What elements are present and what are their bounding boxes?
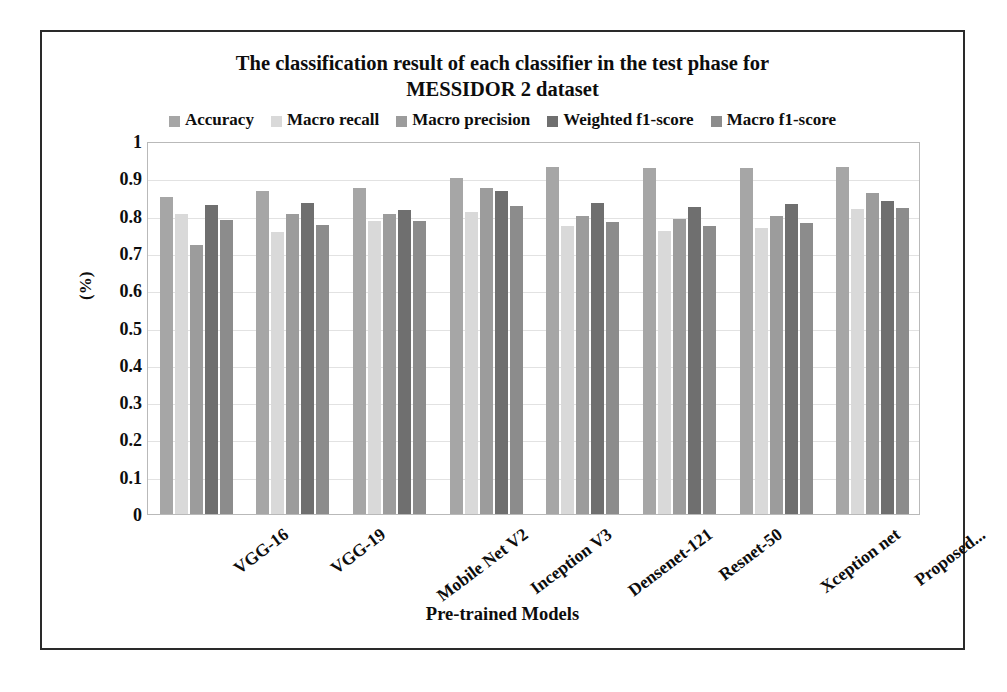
bar[interactable]: [256, 191, 269, 514]
bar[interactable]: [353, 188, 366, 514]
bar-group: [824, 143, 921, 514]
legend-swatch-icon: [271, 116, 282, 127]
y-axis-tick-label: 0.3: [96, 393, 142, 414]
bar-group: [438, 143, 535, 514]
legend-label: Macro f1-score: [727, 110, 836, 130]
bar[interactable]: [851, 209, 864, 514]
bar[interactable]: [688, 207, 701, 514]
bar-group: [341, 143, 438, 514]
legend-label: Accuracy: [185, 110, 254, 130]
y-axis-tick-label: 0.6: [96, 281, 142, 302]
bar-group: [245, 143, 342, 514]
bar[interactable]: [465, 212, 478, 514]
x-axis-tick-label: Densenet-121: [624, 524, 717, 601]
x-axis-tick-label: VGG-19: [327, 524, 390, 579]
bar[interactable]: [836, 167, 849, 514]
bar[interactable]: [770, 216, 783, 514]
legend-swatch-icon: [396, 116, 407, 127]
legend-item-macro-f1-score[interactable]: Macro f1-score: [711, 110, 836, 130]
x-axis-tick-label: Mobile Net V2: [432, 524, 531, 606]
bar[interactable]: [896, 208, 909, 514]
bar[interactable]: [643, 168, 656, 514]
y-axis-tick-labels: 10.90.80.70.60.50.40.30.20.10: [92, 142, 142, 515]
x-axis-tick-label: Resnet-50: [715, 524, 787, 585]
chart-figure: The classification result of each classi…: [40, 30, 965, 650]
chart-legend: AccuracyMacro recallMacro precisionWeigh…: [42, 110, 963, 130]
bar[interactable]: [881, 201, 894, 514]
bar[interactable]: [576, 216, 589, 514]
bar[interactable]: [175, 214, 188, 514]
x-axis-tick-label: Xception net: [816, 524, 904, 598]
legend-label: Macro precision: [412, 110, 530, 130]
legend-item-weighted-f1-score[interactable]: Weighted f1-score: [547, 110, 693, 130]
bar[interactable]: [301, 203, 314, 514]
y-axis-tick-label: 0.7: [96, 243, 142, 264]
bar[interactable]: [800, 223, 813, 514]
bar[interactable]: [703, 226, 716, 514]
bar[interactable]: [606, 222, 619, 514]
legend-swatch-icon: [169, 116, 180, 127]
bar[interactable]: [271, 232, 284, 514]
bar[interactable]: [398, 210, 411, 514]
bar[interactable]: [785, 204, 798, 514]
bar[interactable]: [450, 178, 463, 514]
legend-label: Weighted f1-score: [563, 110, 693, 130]
chart-title: The classification result of each classi…: [42, 50, 963, 102]
bar[interactable]: [866, 193, 879, 514]
x-axis-title: Pre-trained Models: [42, 604, 963, 625]
y-axis-tick-label: 0.1: [96, 467, 142, 488]
legend-item-macro-precision[interactable]: Macro precision: [396, 110, 530, 130]
y-axis-tick-label: 1: [96, 132, 142, 153]
bar-group: [535, 143, 632, 514]
legend-label: Macro recall: [287, 110, 379, 130]
plot-area: [147, 142, 920, 515]
x-axis-tick-label: VGG-16: [230, 524, 293, 579]
y-axis-tick-label: 0: [96, 505, 142, 526]
bar[interactable]: [673, 219, 686, 514]
bar[interactable]: [413, 221, 426, 514]
bar[interactable]: [510, 206, 523, 514]
legend-item-macro-recall[interactable]: Macro recall: [271, 110, 379, 130]
bar[interactable]: [205, 205, 218, 514]
bar[interactable]: [480, 188, 493, 514]
bar[interactable]: [286, 214, 299, 514]
legend-swatch-icon: [547, 116, 558, 127]
bar[interactable]: [546, 167, 559, 514]
bar[interactable]: [316, 225, 329, 514]
bar[interactable]: [755, 228, 768, 514]
bar[interactable]: [368, 221, 381, 514]
y-axis-tick-label: 0.5: [96, 318, 142, 339]
y-axis-tick-label: 0.2: [96, 430, 142, 451]
bar[interactable]: [160, 197, 173, 514]
y-axis-tick-label: 0.4: [96, 355, 142, 376]
y-axis-tick-label: 0.9: [96, 169, 142, 190]
chart-title-line-1: The classification result of each classi…: [42, 50, 963, 76]
x-axis-tick-label: Inception V3: [527, 524, 617, 599]
bar[interactable]: [220, 220, 233, 514]
bar[interactable]: [740, 168, 753, 514]
bar-group: [728, 143, 825, 514]
bar[interactable]: [591, 203, 604, 514]
y-axis-tick-label: 0.8: [96, 206, 142, 227]
bar[interactable]: [561, 226, 574, 514]
legend-swatch-icon: [711, 116, 722, 127]
x-axis-tick-label: Proposed...: [910, 524, 989, 591]
y-axis-title: (%): [76, 272, 96, 300]
bar[interactable]: [190, 245, 203, 514]
legend-item-accuracy[interactable]: Accuracy: [169, 110, 254, 130]
chart-title-line-2: MESSIDOR 2 dataset: [42, 76, 963, 102]
bar[interactable]: [658, 231, 671, 514]
bar[interactable]: [383, 214, 396, 514]
bar-group: [631, 143, 728, 514]
bar[interactable]: [495, 191, 508, 514]
bar-group: [148, 143, 245, 514]
